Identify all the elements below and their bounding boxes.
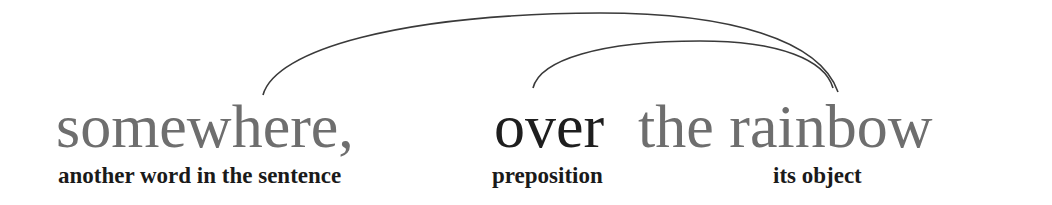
arc-somewhere-to-rainbow	[263, 13, 838, 95]
label-preposition: preposition	[492, 164, 603, 187]
word-the-rainbow: the rainbow	[638, 95, 932, 157]
arc-over-to-rainbow	[533, 41, 833, 88]
label-its-object: its object	[773, 164, 862, 187]
word-over: over	[494, 95, 604, 157]
word-somewhere: somewhere,	[56, 95, 354, 157]
label-another-word: another word in the sentence	[58, 164, 341, 187]
